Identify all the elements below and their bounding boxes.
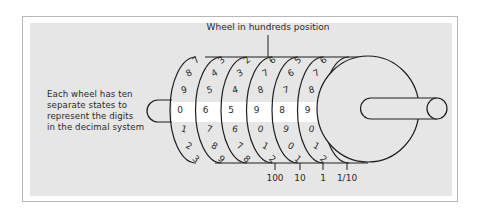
wheel-digit: 8 bbox=[184, 67, 194, 79]
wheel-digit: 4 bbox=[210, 67, 220, 79]
wheel-digit: 3 bbox=[235, 67, 245, 79]
position-label: 1/10 bbox=[337, 173, 357, 183]
wheel-current-digit: 5 bbox=[228, 105, 234, 115]
wheel-digit: 5 bbox=[293, 54, 304, 65]
wheel-digit: 7 bbox=[235, 140, 245, 152]
wheel-digit: 6 bbox=[318, 54, 329, 65]
wheel-digit: 7 bbox=[282, 84, 290, 95]
wheel-digit: 9 bbox=[282, 123, 290, 134]
position-label: 1 bbox=[320, 173, 326, 183]
hundreds-position-label: Wheel in hundreds position bbox=[207, 22, 330, 32]
wheel-current-digit: 9 bbox=[305, 105, 311, 115]
left-axle-stub bbox=[147, 100, 172, 122]
wheel-digit: 8 bbox=[210, 140, 220, 152]
wheel-digit: 1 bbox=[312, 140, 322, 152]
right-axle-end bbox=[427, 98, 447, 119]
wheel-digit: 9 bbox=[180, 84, 188, 95]
position-label: 10 bbox=[294, 173, 306, 183]
wheel-digit: 0 bbox=[286, 140, 296, 152]
position-label: 100 bbox=[266, 173, 283, 183]
reading-band bbox=[168, 102, 318, 122]
wheel-digit: 6 bbox=[267, 54, 278, 65]
wheel-current-digit: 0 bbox=[177, 105, 183, 115]
right-axle bbox=[361, 98, 437, 119]
wheel-digit: 6 bbox=[286, 67, 296, 79]
wheel-digit: 8 bbox=[308, 84, 316, 95]
wheel-digit: 7 bbox=[261, 67, 271, 79]
wheel-digit: 0 bbox=[257, 123, 265, 134]
wheel-digit: 7 bbox=[206, 123, 214, 134]
wheel-digit: 8 bbox=[257, 84, 265, 95]
wheel-digit: 2 bbox=[242, 54, 253, 65]
wheel-digit: 1 bbox=[261, 140, 271, 152]
wheel-current-digit: 9 bbox=[254, 105, 260, 115]
wheel-digit: 7 bbox=[191, 54, 202, 65]
wheel-digit: 0 bbox=[308, 123, 316, 134]
wheel-digit: 1 bbox=[180, 123, 188, 134]
wheel-digit: 2 bbox=[184, 140, 194, 152]
wheel-digit: 7 bbox=[312, 67, 322, 79]
wheel-current-digit: 6 bbox=[203, 105, 209, 115]
wheel-digit: 6 bbox=[231, 123, 239, 134]
wheel-digit: 4 bbox=[231, 84, 239, 95]
wheel-digit: 5 bbox=[206, 84, 214, 95]
wheel-digit: 3 bbox=[216, 54, 227, 65]
counter-wheel-diagram: Wheel in hundreds position 7890123345678… bbox=[0, 0, 481, 212]
wheel-current-digit: 8 bbox=[279, 105, 285, 115]
